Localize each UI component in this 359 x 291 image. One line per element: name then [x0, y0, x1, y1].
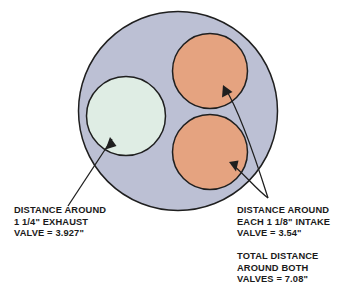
intake-callout-line-1: DISTANCE AROUND — [237, 205, 330, 217]
total-callout-line-3: VALVES = 7.08" — [237, 274, 318, 286]
exhaust-valve-callout: DISTANCE AROUND 1 1/4" EXHAUST VALVE = 3… — [14, 205, 106, 240]
total-distance-callout: TOTAL DISTANCE AROUND BOTH VALVES = 7.08… — [237, 251, 318, 286]
total-callout-line-2: AROUND BOTH — [237, 263, 318, 275]
exhaust-callout-line-1: DISTANCE AROUND — [14, 205, 106, 217]
exhaust-callout-line-2: 1 1/4" EXHAUST — [14, 217, 106, 229]
intake-callout-line-2: EACH 1 1/8" INTAKE — [237, 217, 330, 229]
intake-valve-callout: DISTANCE AROUND EACH 1 1/8" INTAKE VALVE… — [237, 205, 330, 240]
exhaust-callout-line-3: VALVE = 3.927" — [14, 228, 106, 240]
intake-valve-top-circle — [173, 34, 248, 109]
total-callout-line-1: TOTAL DISTANCE — [237, 251, 318, 263]
valve-diagram — [0, 0, 359, 291]
intake-callout-line-3: VALVE = 3.54" — [237, 228, 330, 240]
exhaust-valve-circle — [87, 77, 166, 156]
intake-valve-bottom-circle — [173, 115, 248, 190]
